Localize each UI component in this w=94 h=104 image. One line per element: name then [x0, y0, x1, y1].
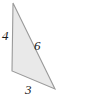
- geometry-figure: 4 6 3: [0, 0, 94, 104]
- side-label-hypotenuse: 6: [34, 39, 41, 52]
- side-label-left: 4: [2, 29, 9, 42]
- triangle-shape: [0, 0, 94, 104]
- side-label-base: 3: [25, 83, 32, 96]
